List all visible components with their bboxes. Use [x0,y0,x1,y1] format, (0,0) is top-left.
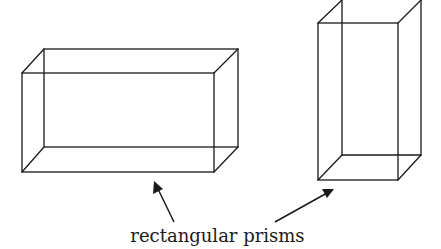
tall-rectangular-prism [318,0,421,180]
arrow-shaft [158,189,174,222]
arrow-head-icon [153,181,163,194]
prism-edge [214,147,238,172]
prism-front-face [22,73,214,172]
caption: rectangular prisms [0,225,441,247]
arrow-shaft [275,193,327,222]
diagram-canvas [0,0,441,249]
prism-edge [22,147,44,172]
prism-edge [214,49,238,73]
prism-back-face [44,49,238,147]
prism-front-face [318,23,398,180]
arrow-to-tall-prism [275,189,334,222]
prism-edge [22,49,44,73]
prism-edge [318,155,342,180]
prism-edge [318,0,342,23]
wide-rectangular-prism [22,49,238,172]
arrow-head-icon [322,189,334,198]
arrow-to-wide-prism [153,181,174,222]
prism-edge [398,0,421,23]
prism-edge [398,155,421,180]
caption-text: rectangular prisms [130,225,304,246]
